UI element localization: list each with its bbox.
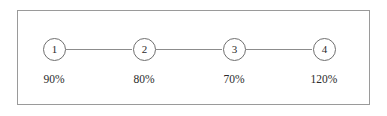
node-2-value: 80% [114, 73, 174, 86]
node-4[interactable]: 4 [313, 38, 336, 61]
node-2[interactable]: 2 [133, 38, 156, 61]
node-2-label: 2 [142, 44, 148, 55]
node-4-value: 120% [294, 73, 354, 86]
edge-1-2 [66, 49, 132, 50]
node-4-label: 4 [322, 44, 328, 55]
node-1-label: 1 [52, 44, 58, 55]
node-3-label: 3 [232, 44, 238, 55]
node-1-value: 90% [24, 73, 84, 86]
diagram-frame: 1 2 3 4 90% 80% 70% 120% [17, 10, 370, 105]
node-3-value: 70% [204, 73, 264, 86]
edge-2-3 [156, 49, 222, 50]
node-3[interactable]: 3 [223, 38, 246, 61]
node-1[interactable]: 1 [43, 38, 66, 61]
diagram-canvas: 1 2 3 4 90% 80% 70% 120% [0, 0, 387, 116]
edge-3-4 [246, 49, 312, 50]
